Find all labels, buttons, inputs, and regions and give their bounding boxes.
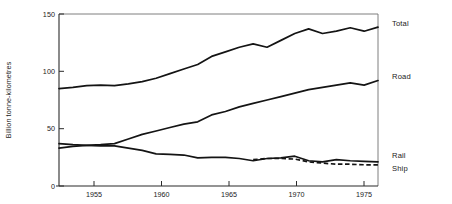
series-line-total <box>59 27 378 88</box>
x-tick-label-1955: 1955 <box>86 190 102 199</box>
series-label-rail: Rail <box>392 151 406 160</box>
y-axis-tick-labels: 150 100 50 0 <box>43 10 55 191</box>
y-axis-title: Billion tonne-kilometres <box>4 61 13 138</box>
data-series-group <box>59 27 378 165</box>
y-tick-label-100: 100 <box>43 67 55 76</box>
x-axis-tick-labels: 1955 1960 1965 1970 1975 <box>86 190 372 199</box>
series-label-total: Total <box>392 19 409 28</box>
x-tick-label-1960: 1960 <box>153 190 169 199</box>
y-axis-ticks <box>59 14 64 186</box>
series-line-road <box>59 81 378 149</box>
series-label-road: Road <box>392 72 411 81</box>
series-label-ship: Ship <box>392 164 408 173</box>
series-line-rail <box>59 144 378 162</box>
y-tick-label-0: 0 <box>51 182 55 191</box>
line-chart: 150 100 50 0 1955 1960 1965 1970 1975 Bi… <box>0 0 452 204</box>
series-labels: Total Road Rail Ship <box>392 19 411 173</box>
x-tick-label-1970: 1970 <box>288 190 304 199</box>
y-tick-label-50: 50 <box>47 124 55 133</box>
x-axis-ticks <box>94 181 364 186</box>
chart-figure: 150 100 50 0 1955 1960 1965 1970 1975 Bi… <box>0 0 452 204</box>
x-tick-label-1975: 1975 <box>356 190 372 199</box>
x-tick-label-1965: 1965 <box>221 190 237 199</box>
y-tick-label-150: 150 <box>43 10 55 19</box>
